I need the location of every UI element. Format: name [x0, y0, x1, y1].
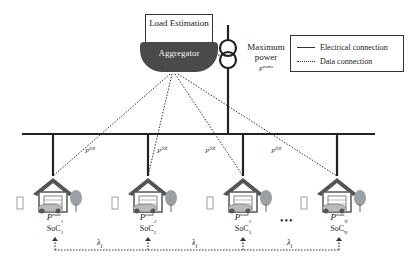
max-power-line1: Maximum — [245, 42, 287, 52]
lambda-label: λi — [192, 238, 197, 249]
load-estimation-label: Load Estimation — [149, 18, 209, 28]
electrical-bus — [22, 134, 375, 176]
ev-station-1-labels: Pmax1 SoC1 — [40, 212, 70, 234]
feeder-label: Ptot — [157, 145, 167, 155]
max-power-symbol: Ptrans — [245, 62, 287, 74]
lambda-label: λi — [287, 238, 292, 249]
lambda-label: λi — [97, 238, 102, 249]
legend-item-data: Data connection — [297, 57, 372, 66]
load-estimation-box: Load Estimation — [145, 14, 213, 44]
house-icon — [17, 178, 82, 214]
legend-label: Data connection — [320, 57, 372, 66]
max-power-label: Maximum power Ptrans — [245, 42, 287, 74]
dotted-line-swatch — [297, 61, 315, 62]
ellipsis: ••• — [280, 215, 294, 226]
house-icon — [207, 178, 272, 214]
data-connection-lines — [53, 55, 337, 176]
feeder-label: Ptot — [271, 145, 281, 155]
legend-label: Electrical connection — [320, 43, 388, 52]
legend-item-electrical: Electrical connection — [297, 43, 388, 52]
feeder-label: Ptot — [205, 145, 215, 155]
ev-station-houses — [17, 178, 366, 214]
legend: Electrical connection Data connection — [290, 35, 404, 72]
house-icon — [301, 178, 366, 214]
max-power-line2: power — [245, 52, 287, 62]
ev-station-n-labels: PmaxN SoCN — [324, 212, 354, 234]
ev-station-3-labels: Pmax3 SoC3 — [228, 212, 258, 234]
house-icon — [112, 178, 177, 214]
transformer-icon — [220, 25, 236, 134]
feeder-label: Ptot — [85, 145, 95, 155]
aggregator-label: Aggregator — [159, 48, 200, 58]
aggregator-node: Aggregator — [140, 42, 218, 72]
solid-line-swatch — [297, 47, 315, 48]
ev-station-2-labels: Pmax2 SoC2 — [133, 212, 163, 234]
